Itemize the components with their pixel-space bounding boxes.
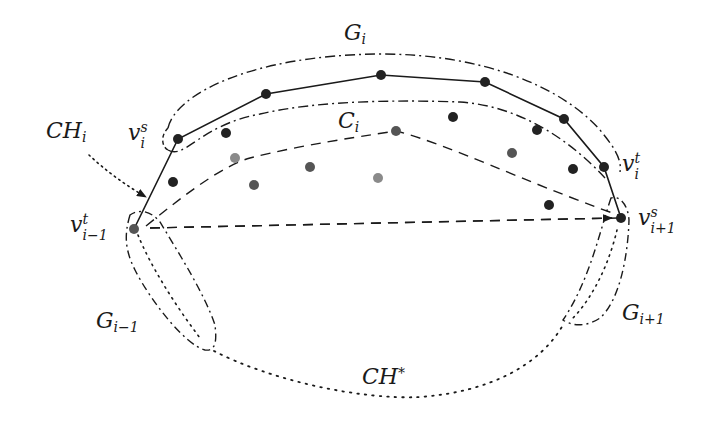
convex-hull-diagram <box>0 0 728 423</box>
label-ch-i: CHi <box>46 120 87 144</box>
region-g-i-minus-1 <box>126 211 215 350</box>
region-g-i-minus-1-inner <box>138 235 200 338</box>
label-v-i-t: vti <box>622 153 634 175</box>
label-v-i-plus-1-s: vsi+1 <box>638 207 650 229</box>
label-g-i-minus-1: Gi−1 <box>96 310 139 334</box>
label-g-i: Gi <box>344 22 366 46</box>
points-mid <box>129 126 517 234</box>
points-dark <box>168 70 626 223</box>
label-v-i-s: vsi <box>128 122 140 144</box>
label-v-i-minus-1-t: vti−1 <box>70 214 82 236</box>
label-g-i-plus-1: Gi+1 <box>622 302 665 326</box>
diagram-canvas <box>0 0 728 423</box>
label-c-i: Ci <box>338 110 359 134</box>
region-g-i-cap-left <box>163 128 168 150</box>
dashed-link <box>150 218 612 228</box>
ch-i-pointer-arrow <box>89 155 146 197</box>
label-ch-star: CH* <box>362 366 405 388</box>
